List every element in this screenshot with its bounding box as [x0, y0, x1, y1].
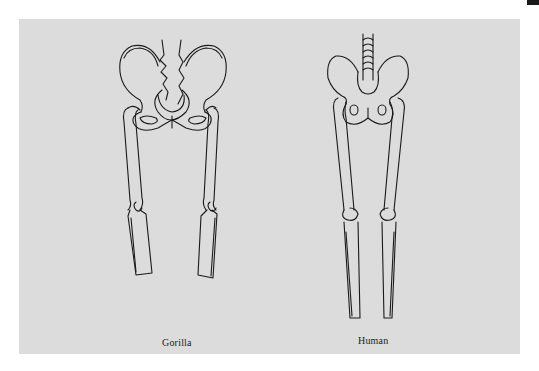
- skeleton-illustration: [0, 0, 539, 371]
- human-label: Human: [358, 335, 388, 346]
- gorilla-label: Gorilla: [162, 337, 192, 348]
- human-skeleton: [328, 34, 409, 318]
- gorilla-skeleton: [120, 40, 227, 278]
